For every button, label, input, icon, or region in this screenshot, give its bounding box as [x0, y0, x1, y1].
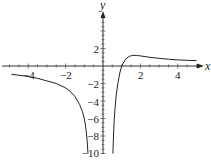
curve-right-branch — [113, 55, 197, 153]
y-tick-label: −2 — [87, 78, 99, 90]
x-axis-label: x — [204, 59, 211, 73]
y-axis-label: y — [99, 0, 106, 12]
x-axis-arrow-icon — [197, 64, 204, 69]
x-tick-label: 4 — [175, 69, 181, 81]
y-tick-label: −6 — [87, 113, 99, 125]
x-tick-label: 2 — [138, 69, 144, 81]
x-tick-label: −4 — [23, 69, 35, 81]
y-tick-label: −8 — [87, 130, 99, 142]
y-tick-labels: 2 −2 −4 −6 −8 −10 — [82, 43, 100, 159]
y-axis: y — [99, 0, 106, 154]
y-tick-label: −10 — [82, 147, 100, 159]
y-axis-arrow-icon — [101, 11, 106, 18]
curve-left-branch — [11, 74, 88, 153]
y-tick-label: −4 — [87, 96, 99, 108]
y-tick-label: 2 — [94, 43, 100, 55]
x-tick-label: −2 — [60, 69, 72, 81]
function-plot: x y −4 −2 2 4 2 −2 −4 −6 −8 −10 — [0, 0, 211, 162]
